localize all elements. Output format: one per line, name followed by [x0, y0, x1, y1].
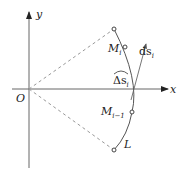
point-m-i — [123, 45, 127, 49]
arc-length-main: Δs — [113, 74, 127, 87]
point-top — [112, 27, 116, 31]
tangent-sub: i — [152, 52, 154, 60]
point-l — [112, 148, 116, 152]
m-i-minus-1-label: Mi−1 — [101, 106, 125, 120]
origin-label: O — [16, 93, 25, 104]
arc-length-diagram: y x O Mi Mi−1 L Δsi dsi — [0, 0, 188, 178]
arc-length-sub: i — [127, 81, 129, 89]
m-i-minus-1-main: M — [101, 105, 112, 118]
tangent-main: ds — [139, 45, 152, 58]
arc-length-label: Δsi — [113, 75, 129, 89]
m-i-minus-1-sub: i−1 — [112, 112, 125, 120]
y-axis-label: y — [36, 9, 42, 20]
l-label: L — [124, 139, 131, 150]
m-i-label: Mi — [108, 43, 122, 57]
x-axis-label: x — [170, 84, 176, 95]
diagram-canvas — [0, 0, 188, 178]
m-i-sub: i — [119, 49, 121, 57]
point-m-i-minus-1 — [130, 110, 134, 114]
tangent-label: dsi — [139, 46, 154, 60]
m-i-main: M — [108, 42, 119, 55]
dashed-ray-top — [29, 29, 114, 89]
